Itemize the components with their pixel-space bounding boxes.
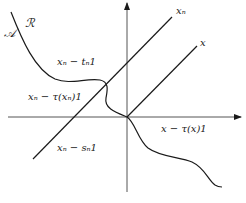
point-x-minus-tau-x-label: x − τ(x)1 xyxy=(161,124,207,134)
point-xn-minus-tau-xn-label: xₙ − τ(xₙ)1 xyxy=(28,92,82,102)
xn-line xyxy=(33,17,172,159)
x-line-label: x xyxy=(200,38,206,48)
xn-line-label: xₙ xyxy=(176,6,186,16)
point-xn-minus-tn-label: xₙ − tₙ1 xyxy=(57,57,96,67)
set-a-label: 𝒜 xyxy=(4,27,15,39)
x-line xyxy=(127,46,197,117)
point-xn-minus-sn-label: xₙ − sₙ1 xyxy=(57,143,97,153)
diagram-figure: 𝒜 ℛ xₙ x xₙ − tₙ1 xₙ − τ(xₙ)1 xₙ − sₙ1 x… xyxy=(0,0,246,203)
set-r-label: ℛ xyxy=(25,17,35,29)
